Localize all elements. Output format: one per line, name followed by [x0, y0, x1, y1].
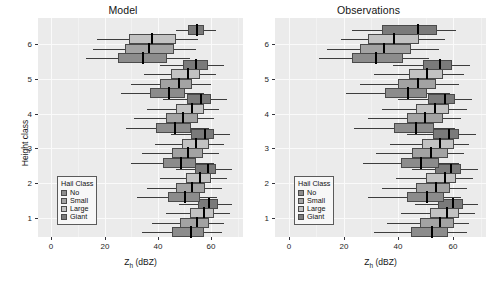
box-large[interactable]	[190, 208, 214, 218]
legend-item-giant[interactable]: Giant	[298, 213, 330, 221]
x-tick-label: 40	[394, 242, 403, 251]
x-tick-mark	[51, 237, 52, 240]
x-tick-label: 60	[207, 242, 216, 251]
gridline-horizontal	[275, 114, 486, 115]
y-tick-label: 3	[20, 144, 32, 153]
legend-swatch-small	[298, 198, 304, 204]
box-no[interactable]	[385, 88, 427, 98]
y-tick-label: 3	[257, 144, 269, 153]
y-tick-mark	[272, 79, 275, 80]
x-tick-mark	[289, 237, 290, 240]
legend-swatch-no	[298, 190, 304, 196]
box-giant[interactable]	[433, 129, 459, 139]
median-line	[142, 52, 144, 64]
y-tick-label: 4	[20, 110, 32, 119]
median-line	[431, 226, 433, 238]
gridline-horizontal	[38, 79, 243, 80]
legend-title: Hail Class	[61, 179, 93, 188]
median-line	[415, 122, 417, 134]
median-line	[196, 24, 198, 36]
box-large[interactable]	[430, 208, 459, 218]
legend-label-giant: Giant	[70, 213, 87, 221]
legend-label-giant: Giant	[307, 213, 324, 221]
x-tick-mark	[453, 237, 454, 240]
x-axis-title: Zh (dBZ)	[124, 257, 156, 269]
y-tick-mark	[272, 114, 275, 115]
x-tick-mark	[344, 237, 345, 240]
gridline-horizontal	[275, 148, 486, 149]
box-no[interactable]	[411, 227, 448, 237]
legend-model[interactable]: Hail ClassNoSmallLargeGiant	[57, 176, 97, 225]
gridline-horizontal	[275, 79, 486, 80]
y-tick-mark	[272, 148, 275, 149]
x-tick-label: 60	[449, 242, 458, 251]
median-line	[190, 226, 192, 238]
legend-swatch-giant	[61, 214, 67, 220]
legend-swatch-giant	[298, 214, 304, 220]
x-tick-mark	[398, 237, 399, 240]
legend-item-giant[interactable]: Giant	[61, 213, 93, 221]
panel-title-model: Model	[0, 4, 246, 16]
gridline-horizontal	[38, 114, 243, 115]
panel-title-observations: Observations	[246, 4, 491, 16]
y-tick-label: 5	[20, 75, 32, 84]
median-line	[420, 157, 422, 169]
median-line	[174, 122, 176, 134]
median-line	[168, 87, 170, 99]
box-no[interactable]	[172, 227, 204, 237]
legend-swatch-large	[61, 206, 67, 212]
x-tick-label: 0	[287, 242, 291, 251]
legend-swatch-no	[61, 190, 67, 196]
y-tick-mark	[35, 183, 38, 184]
box-no[interactable]	[394, 123, 434, 133]
median-line	[407, 87, 409, 99]
y-tick-label: 5	[257, 75, 269, 84]
y-tick-label: 6	[20, 40, 32, 49]
box-giant[interactable]	[428, 94, 455, 104]
y-tick-label: 2	[20, 179, 32, 188]
x-tick-mark	[211, 237, 212, 240]
x-tick-label: 40	[154, 242, 163, 251]
median-line	[184, 191, 186, 203]
x-tick-label: 20	[101, 242, 110, 251]
legend-title: Hail Class	[298, 179, 330, 188]
x-axis-title: Zh (dBZ)	[364, 257, 396, 269]
y-tick-label: 6	[257, 40, 269, 49]
y-tick-mark	[272, 218, 275, 219]
y-tick-label: 1	[20, 214, 32, 223]
y-tick-mark	[272, 183, 275, 184]
boxplot-figure: Model Observations Height class 02040601…	[0, 0, 491, 285]
gridline-vertical	[105, 18, 106, 237]
y-tick-label: 4	[257, 110, 269, 119]
gridline-vertical	[344, 18, 345, 237]
x-tick-label: 0	[49, 242, 53, 251]
median-line	[426, 191, 428, 203]
y-tick-mark	[35, 148, 38, 149]
y-axis-title: Height class	[20, 119, 30, 165]
x-tick-mark	[105, 237, 106, 240]
box-no[interactable]	[352, 53, 403, 63]
gridline-vertical-minor	[481, 18, 482, 237]
y-tick-mark	[35, 218, 38, 219]
legend-swatch-large	[298, 206, 304, 212]
gridline-vertical-minor	[238, 18, 239, 237]
median-line	[375, 52, 377, 64]
gridline-vertical	[51, 18, 52, 237]
x-tick-label: 20	[340, 242, 349, 251]
box-large[interactable]	[171, 69, 200, 79]
x-tick-mark	[158, 237, 159, 240]
median-line	[180, 157, 182, 169]
box-large[interactable]	[426, 173, 456, 183]
gridline-horizontal	[38, 148, 243, 149]
y-tick-label: 1	[257, 214, 269, 223]
legend-observations[interactable]: Hail ClassNoSmallLargeGiant	[294, 176, 334, 225]
y-tick-label: 2	[257, 179, 269, 188]
gridline-vertical	[289, 18, 290, 237]
y-tick-mark	[35, 44, 38, 45]
y-tick-mark	[272, 44, 275, 45]
y-tick-mark	[35, 114, 38, 115]
legend-swatch-small	[61, 198, 67, 204]
y-tick-mark	[35, 79, 38, 80]
